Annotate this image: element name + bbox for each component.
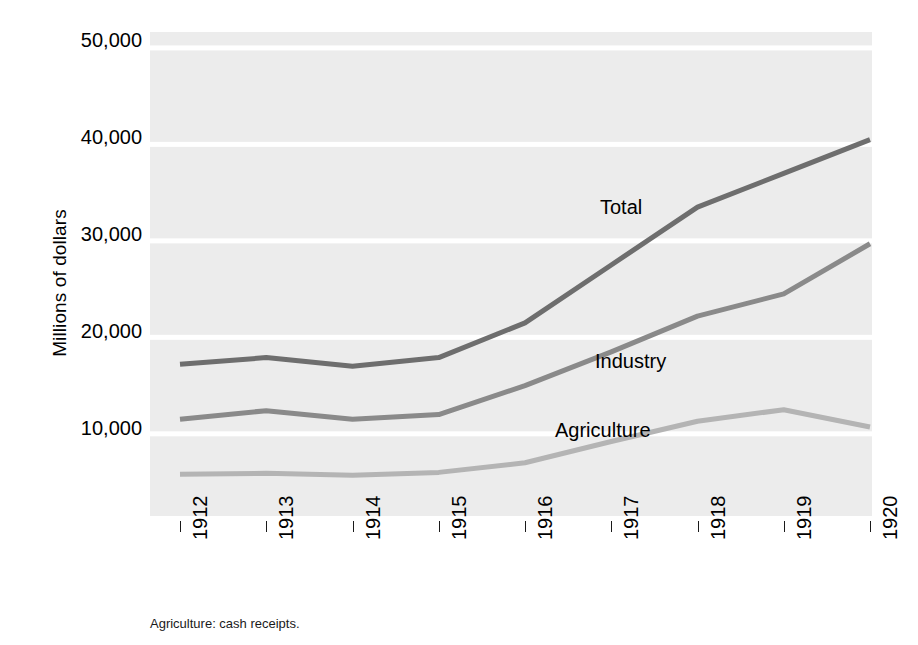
x-tick-label-1913: 1913: [275, 470, 298, 540]
gridline-30000: [150, 238, 872, 243]
plot-svg: [150, 32, 872, 516]
gridline-20000: [150, 335, 872, 340]
x-tick-mark-1916: [525, 521, 526, 532]
x-tick-mark-1917: [611, 521, 612, 532]
x-tick-mark-1912: [180, 521, 181, 532]
chart-figure: Millions of dollars 50,000 40,000 30,000…: [0, 0, 918, 645]
y-tick-label-50000: 50,000: [42, 30, 142, 50]
x-tick-label-1912: 1912: [189, 470, 212, 540]
x-tick-mark-1914: [353, 521, 354, 532]
x-tick-label-1917: 1917: [620, 470, 643, 540]
x-tick-label-1915: 1915: [448, 470, 471, 540]
gridline-40000: [150, 142, 872, 147]
gridlines: [150, 45, 872, 436]
x-tick-mark-1915: [439, 521, 440, 532]
x-tick-label-1916: 1916: [534, 470, 557, 540]
series-line-agriculture: [180, 410, 870, 476]
chart-footnote: Agriculture: cash receipts.: [150, 616, 300, 631]
gridline-10000: [150, 431, 872, 436]
y-tick-label-20000: 20,000: [42, 321, 142, 341]
x-tick-mark-1919: [784, 521, 785, 532]
x-tick-mark-1918: [698, 521, 699, 532]
x-tick-mark-1913: [266, 521, 267, 532]
series-line-total: [180, 140, 870, 367]
plot-area: [150, 32, 872, 516]
y-axis-tick-labels: 50,000 40,000 30,000 20,000 10,000: [42, 0, 142, 645]
x-tick-label-1920: 1920: [879, 470, 902, 540]
y-tick-label-40000: 40,000: [42, 127, 142, 147]
gridline-50000: [150, 45, 872, 50]
x-tick-label-1919: 1919: [793, 470, 816, 540]
series-label-total: Total: [600, 196, 642, 219]
series-lines: [180, 140, 870, 476]
y-tick-label-30000: 30,000: [42, 224, 142, 244]
x-tick-label-1914: 1914: [362, 470, 385, 540]
y-tick-label-10000: 10,000: [42, 418, 142, 438]
x-tick-label-1918: 1918: [707, 470, 730, 540]
series-line-industry: [180, 244, 870, 420]
series-label-agriculture: Agriculture: [555, 419, 651, 442]
x-tick-mark-1920: [870, 521, 871, 532]
series-label-industry: Industry: [595, 350, 666, 373]
